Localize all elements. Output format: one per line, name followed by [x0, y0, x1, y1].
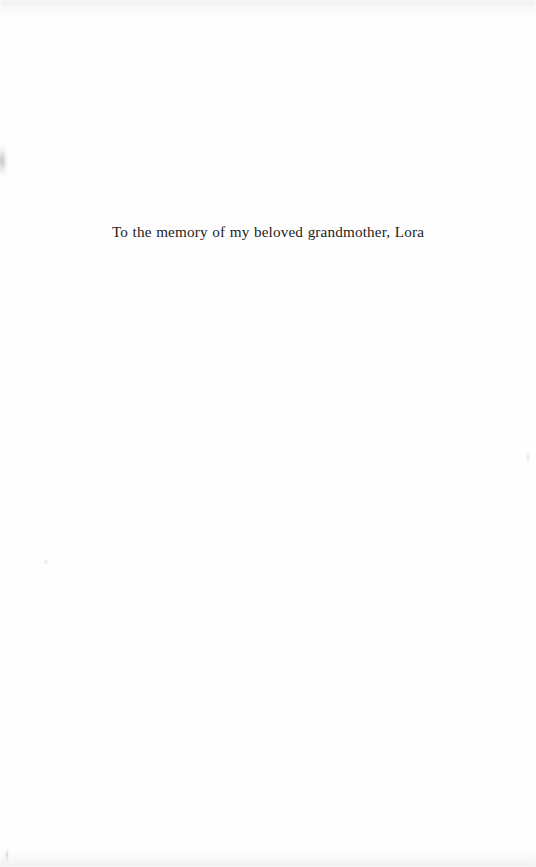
scan-mark-bottom-left-icon	[4, 846, 12, 864]
dedication-text: To the memory of my beloved grandmother,…	[112, 222, 424, 242]
scan-noise-top-icon	[0, 0, 536, 22]
scanned-page: To the memory of my beloved grandmother,…	[0, 0, 536, 867]
dedication-block: To the memory of my beloved grandmother,…	[0, 222, 536, 242]
scan-noise-bottom-icon	[0, 846, 536, 867]
paper-surface	[0, 0, 536, 867]
scan-mark-right-icon	[524, 448, 533, 466]
scan-speck-left-icon	[42, 558, 50, 567]
scan-smudge-left-icon	[0, 143, 13, 179]
